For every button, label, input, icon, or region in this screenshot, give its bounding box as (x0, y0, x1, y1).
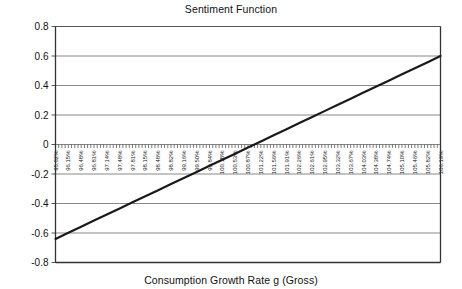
sentiment-function-chart: Sentiment Function 0.80.60.40.20-0.2-0.4… (0, 0, 462, 289)
y-tick-label: -0.2 (31, 169, 49, 180)
x-tick-label: 102.95% (322, 150, 328, 174)
x-tick-label: 104.74% (386, 150, 392, 174)
x-tick-label: 97.81% (130, 150, 136, 171)
x-tick-label: 101.91% (284, 150, 290, 174)
x-axis-title: Consumption Growth Rate g (Gross) (0, 274, 462, 286)
x-tick-label: 103.67% (348, 150, 354, 174)
plot-area: 0.80.60.40.20-0.2-0.4-0.6-0.8 95.82%96.1… (0, 0, 462, 289)
y-tick-label: 0.6 (35, 51, 49, 62)
y-tick-label: -0.4 (31, 198, 49, 209)
x-tick-label: 102.26% (296, 150, 302, 174)
x-tick-label: 96.15% (65, 150, 71, 171)
x-tick-label: 105.10% (399, 150, 405, 174)
y-tick-label: -0.8 (31, 257, 49, 268)
x-tick-label: 97.14% (104, 150, 110, 171)
x-tick-label: 101.22% (258, 150, 264, 174)
x-tick-label: 99.50% (194, 150, 200, 171)
x-tick-label: 96.48% (78, 150, 84, 171)
x-tick-label: 104.38% (373, 150, 379, 174)
y-tick-label: 0 (43, 139, 49, 150)
y-tick-label: 0.8 (35, 21, 49, 32)
x-tick-label: 100.87% (245, 150, 251, 174)
x-tick-label: 103.32% (335, 150, 341, 174)
x-tick-label: 98.15% (142, 150, 148, 171)
x-tick-label: 102.61% (309, 150, 315, 174)
x-tick-label: 105.46% (412, 150, 418, 174)
x-tick-label: 97.48% (117, 150, 123, 171)
x-tick-label: 99.16% (181, 150, 187, 171)
x-tick-label: 100.18% (219, 150, 225, 174)
plot-svg: 0.80.60.40.20-0.2-0.4-0.6-0.8 95.82%96.1… (0, 0, 462, 289)
x-tick-label: 96.81% (91, 150, 97, 171)
x-tick-label: 101.56% (271, 150, 277, 174)
y-tick-labels: 0.80.60.40.20-0.2-0.4-0.6-0.8 (31, 21, 49, 268)
y-tick-label: 0.2 (35, 110, 49, 121)
x-tick-label: 104.03% (361, 150, 367, 174)
x-tick-label: 98.48% (155, 150, 161, 171)
y-tick-label: -0.6 (31, 228, 49, 239)
y-tick-label: 0.4 (35, 80, 49, 91)
x-tick-labels: 95.82%96.15%96.48%96.81%97.14%97.48%97.8… (53, 150, 444, 174)
x-tick-label: 98.82% (168, 150, 174, 171)
x-tick-label: 105.82% (425, 150, 431, 174)
